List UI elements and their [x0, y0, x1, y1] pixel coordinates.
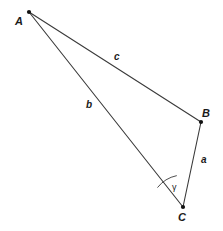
vertex-label-A: A	[15, 16, 23, 27]
vertex-label-B: B	[202, 108, 210, 119]
side-c-line	[29, 12, 201, 122]
vertex-B-point	[199, 120, 203, 124]
side-label-c: c	[114, 52, 120, 62]
side-label-a: a	[201, 155, 207, 165]
side-b-line	[29, 12, 183, 207]
triangle-drawing-canvas	[0, 0, 223, 231]
triangle-diagram: A B C a b c γ	[0, 0, 223, 231]
vertex-C-point	[181, 205, 185, 209]
side-a-line	[183, 122, 201, 207]
vertex-A-point	[27, 10, 31, 14]
angle-label-gamma: γ	[172, 183, 177, 192]
vertex-label-C: C	[178, 212, 186, 223]
side-label-b: b	[86, 100, 92, 110]
